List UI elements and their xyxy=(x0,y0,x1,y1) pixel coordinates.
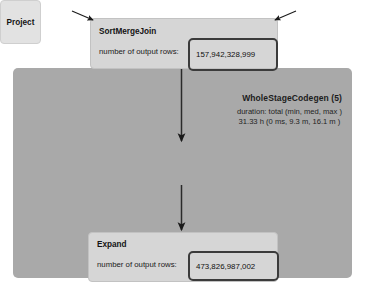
node-sortmergejoin-metric-label: number of output rows: xyxy=(99,47,179,56)
sortmergejoin-output-rows-value: 157,942,328,999 xyxy=(196,40,255,69)
arrow-into-sortmergejoin-right xyxy=(275,11,296,20)
node-sortmergejoin-title: SortMergeJoin xyxy=(99,27,156,36)
query-plan-diagram: WholeStageCodegen (5) duration: total (m… xyxy=(0,0,365,291)
duration-metric-value: 31.33 h (0 ms, 9.3 m, 16.1 m ) xyxy=(237,117,342,127)
duration-metric-header: duration: total (min, med, max ) xyxy=(237,107,342,117)
node-project[interactable]: Project xyxy=(0,0,41,44)
node-expand-title: Expand xyxy=(97,240,127,249)
node-expand-metric-label: number of output rows: xyxy=(97,260,177,269)
wholestagecodegen-duration-metric: duration: total (min, med, max ) 31.33 h… xyxy=(237,107,342,126)
expand-output-rows-value: 473,826,987,002 xyxy=(196,253,255,279)
highlight-box-expand-rows: 473,826,987,002 xyxy=(188,251,279,281)
highlight-box-sortmergejoin-rows: 157,942,328,999 xyxy=(188,38,278,71)
node-project-title: Project xyxy=(7,18,35,27)
wholestagecodegen-title: WholeStageCodegen (5) xyxy=(242,93,342,103)
